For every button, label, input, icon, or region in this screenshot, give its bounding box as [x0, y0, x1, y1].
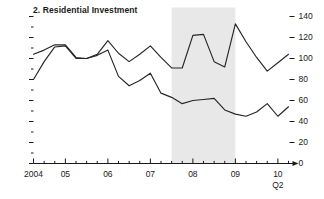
y-axis-tick-label: 0	[299, 158, 304, 168]
series-lower-line	[34, 46, 289, 116]
y-axis-tick-label: 60	[299, 95, 308, 105]
x-axis-tick-label: 06	[88, 169, 128, 179]
x-axis-tick-sublabel: Q2	[258, 180, 298, 190]
y-axis-tick-label: 140	[299, 11, 313, 21]
series-upper-line	[34, 24, 289, 71]
x-axis-tick-label: 07	[130, 169, 170, 179]
x-axis-tick-label: 08	[173, 169, 213, 179]
y-axis-tick-label: 120	[299, 32, 313, 42]
x-axis-tick-label: 09	[215, 169, 255, 179]
chart-axes	[29, 17, 299, 166]
y-axis-tick-label: 80	[299, 74, 308, 84]
x-axis-tick-label: 05	[45, 169, 85, 179]
residential-investment-chart: 2. Residential Investment 02040608010012…	[0, 0, 324, 199]
recession-shading	[172, 8, 236, 164]
x-axis-tick-label: 10	[258, 169, 298, 179]
chart-series	[34, 24, 289, 116]
y-axis-tick-label: 40	[299, 116, 308, 126]
y-axis-tick-label: 100	[299, 53, 313, 63]
y-axis-tick-label: 20	[299, 137, 308, 147]
